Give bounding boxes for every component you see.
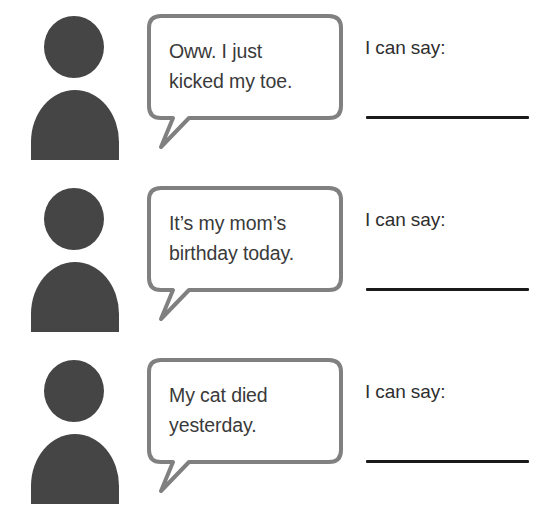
person-body-shape [31, 434, 119, 504]
answer-blank-line[interactable] [366, 288, 529, 291]
speech-bubble: My cat died yesterday. [147, 358, 343, 498]
person-head-shape [44, 188, 104, 250]
prompt-label: I can say: [365, 208, 445, 232]
prompt-label: I can say: [365, 36, 445, 60]
person-silhouette-icon [31, 16, 119, 162]
speech-bubble: It’s my mom’s birthday today. [147, 186, 343, 326]
worksheet-row: Oww. I just kicked my toe. I can say: [0, 2, 546, 174]
prompt-label: I can say: [365, 380, 445, 404]
person-silhouette-icon [31, 188, 119, 334]
answer-blank-line[interactable] [366, 460, 529, 463]
worksheet-row: It’s my mom’s birthday today. I can say: [0, 174, 546, 346]
speech-bubble-text: My cat died yesterday. [169, 380, 325, 440]
answer-blank-line[interactable] [366, 116, 529, 119]
speech-bubble-text: It’s my mom’s birthday today. [169, 208, 325, 268]
person-head-shape [44, 360, 104, 422]
person-body-shape [31, 262, 119, 332]
person-silhouette-icon [31, 360, 119, 506]
worksheet-row: My cat died yesterday. I can say: [0, 346, 546, 517]
speech-bubble: Oww. I just kicked my toe. [147, 14, 343, 154]
person-body-shape [31, 90, 119, 160]
speech-bubble-text: Oww. I just kicked my toe. [169, 36, 325, 96]
person-head-shape [44, 16, 104, 78]
empathy-response-worksheet: Oww. I just kicked my toe. I can say: It… [0, 0, 546, 517]
